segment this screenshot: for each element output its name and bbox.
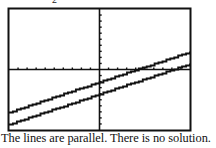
graph-screen <box>0 0 216 134</box>
result-caption: The lines are parallel. There is no solu… <box>1 131 211 146</box>
